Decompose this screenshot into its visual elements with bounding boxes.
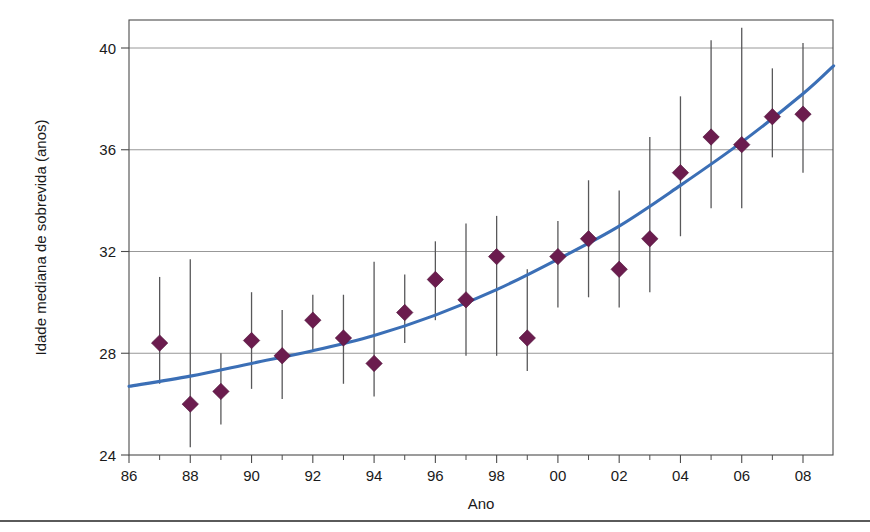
x-tick-label: 88: [182, 467, 199, 484]
x-tick-label: 96: [427, 467, 444, 484]
x-tick-label: 98: [488, 467, 505, 484]
data-point-marker: [151, 335, 167, 351]
data-markers: [151, 106, 811, 412]
data-point-marker: [427, 271, 443, 287]
x-tick-label: 06: [733, 467, 750, 484]
footer-divider: [0, 520, 870, 522]
x-tick-label: 00: [550, 467, 567, 484]
y-tick-label: 36: [99, 141, 116, 158]
figure-container: 2428323640 868890929496980002040608 AnoI…: [0, 0, 870, 532]
data-point-marker: [488, 248, 504, 264]
y-axis-title: Idade mediana de sobrevida (anos): [32, 120, 49, 356]
grid-lines: [129, 48, 833, 353]
data-point-marker: [611, 261, 627, 277]
data-point-marker: [213, 383, 229, 399]
x-tick-label: 90: [243, 467, 260, 484]
x-tick-label: 08: [795, 467, 812, 484]
x-tick-label: 92: [304, 467, 321, 484]
x-tick-label: 94: [366, 467, 383, 484]
data-point-marker: [366, 355, 382, 371]
chart-svg: 2428323640 868890929496980002040608 AnoI…: [0, 0, 870, 532]
x-tick-label: 02: [611, 467, 628, 484]
y-tick-label: 40: [99, 40, 116, 57]
data-point-marker: [397, 304, 413, 320]
x-tick-label: 04: [672, 467, 689, 484]
x-tick-label: 86: [121, 467, 138, 484]
trend-line: [129, 66, 834, 387]
data-point-marker: [519, 330, 535, 346]
y-tick-label: 28: [99, 345, 116, 362]
y-axis-ticks: 2428323640: [99, 40, 129, 464]
plot-frame: [129, 20, 833, 455]
y-tick-label: 24: [99, 447, 116, 464]
data-point-marker: [274, 348, 290, 364]
data-point-marker: [243, 332, 259, 348]
data-point-marker: [182, 396, 198, 412]
fitted-trend-path: [129, 66, 834, 387]
data-point-marker: [703, 129, 719, 145]
data-point-marker: [305, 312, 321, 328]
error-bars: [160, 28, 803, 448]
x-axis-title: Ano: [468, 495, 495, 512]
plot-border: [129, 20, 833, 455]
data-point-marker: [642, 231, 658, 247]
data-point-marker: [795, 106, 811, 122]
x-axis-ticks: 868890929496980002040608: [121, 455, 812, 484]
data-point-marker: [672, 164, 688, 180]
y-tick-label: 32: [99, 243, 116, 260]
